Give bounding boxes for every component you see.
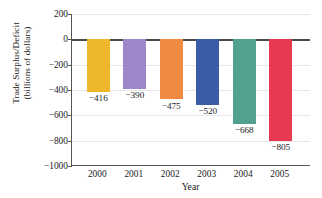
bar-value-label: −475	[162, 101, 181, 111]
x-tick-label: 2002	[161, 169, 180, 179]
x-tick-label: 2003	[197, 169, 216, 179]
x-tick-label: 2004	[234, 169, 253, 179]
y-tick-label: −1000	[44, 161, 68, 171]
bar	[269, 39, 292, 141]
bars-layer: −416−390−475−520−668−805	[72, 14, 310, 166]
y-tick-label: 0	[63, 34, 68, 44]
bar	[196, 39, 219, 105]
bar-value-label: −668	[235, 125, 254, 135]
x-axis-title: Year	[71, 181, 310, 192]
y-tick-label: −800	[49, 136, 68, 146]
x-axis-line	[72, 165, 310, 166]
y-tick-label: −600	[49, 110, 68, 120]
bar	[233, 39, 256, 124]
y-axis-title-line-1: Trade Surplus/Deficit	[11, 0, 22, 143]
y-axis-title-line-2: (billions of dollars)	[22, 0, 33, 143]
bar	[123, 39, 146, 88]
bar	[160, 39, 183, 99]
plot-area: 2000−200−400−600−800−1000 −416−390−475−5…	[71, 14, 310, 166]
bar-value-label: −390	[125, 90, 144, 100]
x-tick-label: 2000	[88, 169, 107, 179]
y-tick-label: 200	[54, 9, 68, 19]
bar-value-label: −416	[89, 93, 108, 103]
bar	[87, 39, 110, 92]
x-tick-label: 2001	[124, 169, 143, 179]
x-tick-label: 2005	[270, 169, 289, 179]
y-axis-title: Trade Surplus/Deficit (billions of dolla…	[11, 0, 33, 143]
bar-value-label: −805	[271, 142, 290, 152]
bar-value-label: −520	[198, 106, 217, 116]
bar-chart: Trade Surplus/Deficit (billions of dolla…	[0, 0, 322, 198]
y-tick-mark	[68, 166, 72, 167]
y-tick-label: −400	[49, 85, 68, 95]
y-tick-label: −200	[49, 60, 68, 70]
